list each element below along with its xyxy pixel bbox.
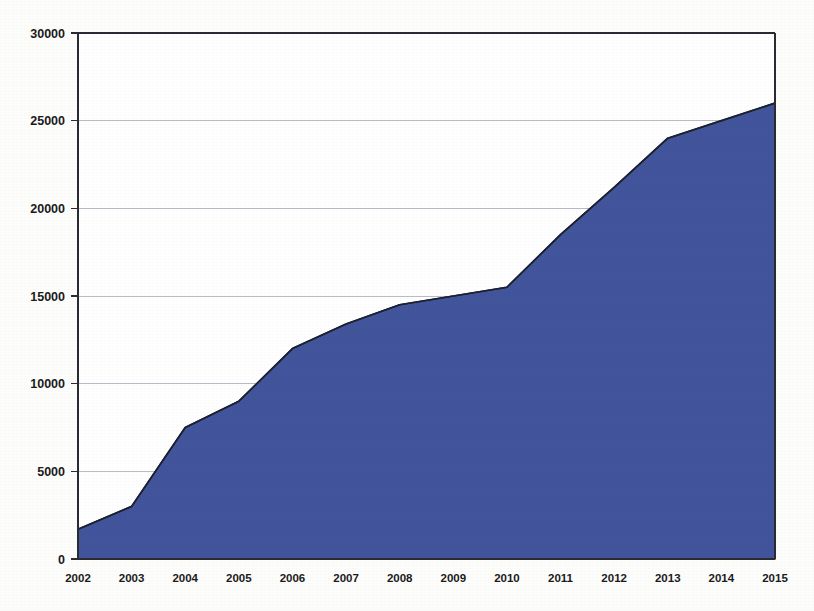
area-chart: 050001000015000200002500030000 200220032… [0, 0, 814, 611]
x-tick-label: 2004 [172, 572, 198, 584]
x-tick-label: 2010 [494, 572, 520, 584]
y-tick-label: 5000 [37, 465, 65, 479]
x-tick-label: 2015 [762, 572, 788, 584]
x-tick-label: 2007 [333, 572, 359, 584]
y-tick-label: 30000 [30, 27, 65, 41]
x-tick-label: 2014 [709, 572, 735, 584]
x-tick-label: 2003 [119, 572, 145, 584]
x-tick-label: 2006 [280, 572, 306, 584]
chart-container: 050001000015000200002500030000 200220032… [0, 0, 814, 611]
y-tick-label: 10000 [30, 377, 65, 391]
y-tick-label: 15000 [30, 290, 65, 304]
y-tick-label: 0 [58, 553, 65, 567]
y-tick-label: 20000 [30, 202, 65, 216]
x-tick-label: 2012 [601, 572, 627, 584]
x-tick-label: 2002 [65, 572, 91, 584]
y-tick-label: 25000 [30, 114, 65, 128]
x-tick-label: 2013 [655, 572, 681, 584]
x-tick-label: 2009 [441, 572, 467, 584]
x-tick-label: 2011 [548, 572, 574, 584]
x-tick-label: 2008 [387, 572, 413, 584]
x-tick-label: 2005 [226, 572, 252, 584]
